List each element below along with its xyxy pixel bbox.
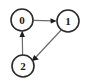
edge-0-to-1 (34, 18, 57, 23)
node-2-label: 2 (20, 60, 26, 72)
node-1-label: 1 (65, 15, 71, 27)
directed-graph-figure: 0 1 2 (0, 0, 86, 83)
edge-0-to-1-line (34, 20, 53, 21)
graph-node-1[interactable]: 1 (57, 10, 79, 32)
edge-0-to-1-arrowhead (50, 18, 56, 23)
edge-1-to-2 (32, 30, 61, 61)
edge-2-to-0 (20, 31, 25, 55)
edge-1-to-2-line (36, 30, 62, 58)
graph-node-2[interactable]: 2 (12, 55, 34, 77)
graph-node-0[interactable]: 0 (11, 9, 33, 31)
graph-canvas: 0 1 2 (0, 0, 86, 83)
node-0-label: 0 (19, 14, 25, 26)
